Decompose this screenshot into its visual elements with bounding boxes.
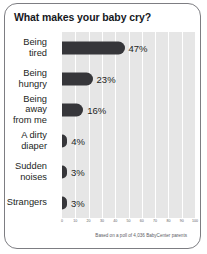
bar-value-label: 16% [83, 104, 106, 115]
category-label: Being hungry [4, 68, 47, 89]
x-tick-label: 0 [61, 219, 63, 223]
bar-row: 4% [62, 125, 195, 156]
x-tick-label: 90 [180, 219, 184, 223]
chart-plot-area: 47%23%16%4%3%3% [62, 32, 195, 218]
category-label: Sudden noises [4, 161, 47, 182]
x-tick-label: 70 [153, 219, 157, 223]
bar-value-label: 47% [125, 42, 148, 53]
bar-value-label: 4% [67, 135, 85, 146]
bar-row: 23% [62, 63, 195, 94]
bar-row: 47% [62, 32, 195, 63]
bar-value-label: 3% [67, 197, 85, 208]
x-tick-label: 80 [166, 219, 170, 223]
x-tick-label: 50 [127, 219, 131, 223]
bar [62, 72, 93, 85]
gridline [195, 32, 196, 218]
bar-row: 3% [62, 156, 195, 187]
x-tick-label: 30 [100, 219, 104, 223]
category-label: A dirty diaper [4, 130, 47, 151]
category-label: Strangers [4, 197, 47, 207]
bar-value-label: 23% [93, 73, 116, 84]
x-tick-label: 10 [73, 219, 77, 223]
bar [62, 41, 125, 54]
bar-row: 16% [62, 94, 195, 125]
x-tick-label: 60 [140, 219, 144, 223]
category-label: Being tired [4, 37, 47, 58]
category-label: Being away from me [4, 94, 47, 125]
x-tick-label: 100 [192, 219, 198, 223]
bar [62, 103, 83, 116]
x-axis: 0102030405060708090100 [62, 219, 195, 228]
bar-value-label: 3% [67, 166, 85, 177]
x-tick-label: 40 [113, 219, 117, 223]
page-title: What makes your baby cry? [14, 11, 151, 23]
chart-card: What makes your baby cry? 47%23%16%4%3%3… [4, 3, 201, 249]
x-tick-label: 20 [87, 219, 91, 223]
bar-row: 3% [62, 187, 195, 218]
chart-footnote: Based on a poll of 4,036 BabyCenter pare… [95, 233, 187, 238]
